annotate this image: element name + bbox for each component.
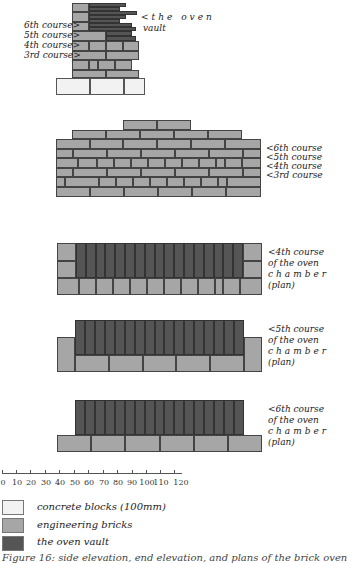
brick <box>57 337 75 372</box>
vault-slat <box>115 400 125 435</box>
vault-slat <box>105 400 115 435</box>
vault-slat <box>224 400 234 435</box>
concrete-block <box>56 78 90 95</box>
vault-slat <box>115 243 125 278</box>
brick <box>160 435 194 452</box>
brick <box>56 177 65 187</box>
vault-slat <box>105 243 115 278</box>
brick <box>150 177 167 187</box>
end-elevation <box>56 120 261 200</box>
brick <box>167 177 184 187</box>
brick <box>225 139 261 149</box>
brick <box>215 278 223 295</box>
vault-slat <box>204 400 214 435</box>
vault-slat <box>223 243 233 278</box>
brick <box>56 158 78 168</box>
vault-slats <box>76 243 243 278</box>
vault-slat <box>214 400 224 435</box>
brick <box>175 149 209 158</box>
brick <box>182 158 199 168</box>
brick <box>201 177 218 187</box>
scale-tick-label: 70 <box>99 478 109 487</box>
vault-slat <box>135 400 145 435</box>
brick <box>114 158 131 168</box>
brick <box>243 168 261 177</box>
brick <box>89 41 106 51</box>
label-plan6-l2: of the oven <box>268 415 319 425</box>
brick <box>56 187 90 197</box>
brick <box>90 139 123 149</box>
vault-slat <box>214 243 224 278</box>
vault-slat <box>164 243 174 278</box>
scale-tick-label: 10 <box>12 478 22 487</box>
brick <box>109 355 143 372</box>
swatch-engineering-bricks <box>2 518 24 533</box>
vault-slat <box>174 400 184 435</box>
brick <box>243 261 262 278</box>
label-side-6th: 6th course> <box>24 20 80 30</box>
brick <box>228 435 262 452</box>
legend-label: concrete blocks (100mm) <box>37 501 166 512</box>
brick <box>78 158 97 168</box>
vault-slat <box>145 243 155 278</box>
scale-tick-label: 50 <box>70 478 80 487</box>
vault-slat <box>224 320 234 355</box>
vault-slat <box>135 320 145 355</box>
label-oven-vault: <the oven <box>141 12 215 22</box>
label-plan5-l4: (plan) <box>268 357 295 367</box>
figure-caption: Figure 16: side elevation, end elevation… <box>2 552 347 563</box>
vault-slat <box>204 320 214 355</box>
vault-slat <box>233 243 243 278</box>
brick <box>123 120 157 130</box>
label-end-3rd: <3rd course <box>266 170 323 180</box>
vault-slat <box>174 243 184 278</box>
vault-slat <box>194 320 204 355</box>
scale-tick <box>117 470 118 474</box>
label-plan6-l4: (plan) <box>268 437 295 447</box>
vault-slats <box>75 320 244 355</box>
label-plan5-l1: <5th course <box>268 324 324 334</box>
label-plan4-l1: <4th course <box>268 247 324 257</box>
brick <box>218 177 227 187</box>
brick <box>141 149 175 158</box>
scale-tick-label: 0 <box>0 478 5 487</box>
plan-6th-course <box>57 400 262 455</box>
vault-slat <box>155 243 165 278</box>
brick <box>223 278 240 295</box>
brick <box>72 60 89 70</box>
scale-tick-label: 40 <box>55 478 65 487</box>
brick <box>210 355 244 372</box>
label-plan4-l3: chamber <box>268 269 329 279</box>
brick <box>174 130 208 139</box>
brick <box>125 435 159 452</box>
brick <box>158 187 192 197</box>
brick <box>113 278 130 295</box>
scale-tick-label: 110 <box>153 478 168 487</box>
brick <box>89 60 98 70</box>
scale-tick <box>59 470 60 474</box>
label-plan4-l2: of the oven <box>268 258 319 268</box>
vault-slat <box>234 320 244 355</box>
legend: concrete blocks (100mm) engineering bric… <box>0 498 316 546</box>
brick <box>240 278 262 295</box>
brick <box>107 168 141 177</box>
vault-slat <box>194 400 204 435</box>
vault-slat <box>214 320 224 355</box>
brick <box>57 261 76 278</box>
brick <box>225 158 242 168</box>
brick <box>65 177 99 187</box>
brick <box>175 168 209 177</box>
brick <box>72 70 106 78</box>
scale-tick-label: 20 <box>26 478 36 487</box>
brick <box>242 158 261 168</box>
vault-slat <box>115 320 125 355</box>
vault-slat <box>204 243 214 278</box>
brick <box>123 139 157 149</box>
brick <box>199 158 216 168</box>
scale-tick <box>174 470 175 474</box>
vault-slat <box>95 400 105 435</box>
label-plan6-l3: chamber <box>268 426 329 436</box>
brick <box>107 149 141 158</box>
brick <box>56 168 73 177</box>
swatch-oven-vault <box>2 536 24 551</box>
